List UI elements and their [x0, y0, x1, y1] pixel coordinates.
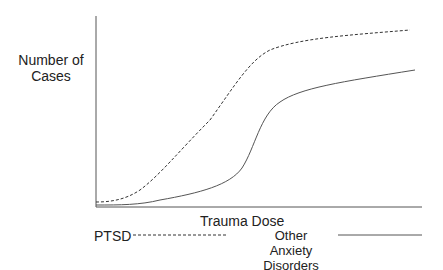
x-axis-label: Trauma Dose	[200, 213, 284, 229]
legend-other-line1: Other Anxiety	[254, 228, 328, 258]
y-axis-label-line2: Cases	[18, 68, 84, 84]
legend-other-line2: Disorders	[254, 258, 328, 270]
y-axis-label: Number of Cases	[18, 52, 84, 84]
legend-ptsd-label: PTSD	[94, 228, 131, 244]
y-axis-label-line1: Number of	[18, 52, 84, 68]
other-anxiety-curve	[96, 70, 415, 205]
chart-canvas	[0, 0, 443, 270]
legend-other-label: Other Anxiety Disorders	[254, 228, 328, 270]
ptsd-curve	[96, 30, 410, 202]
